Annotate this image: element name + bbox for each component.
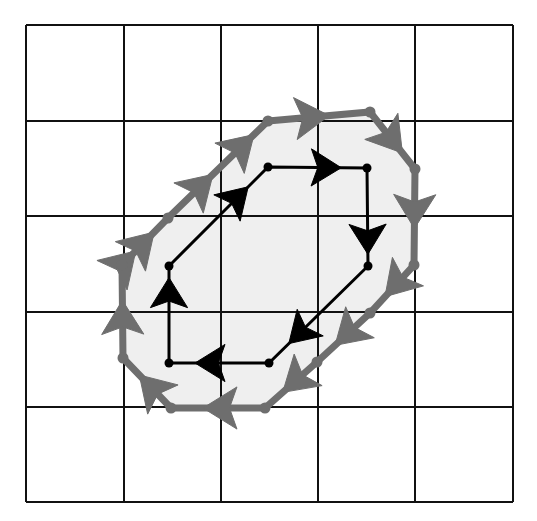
outer-gray-polygon-vertex-0 <box>263 116 274 127</box>
outer-gray-polygon-vertex-7 <box>166 403 177 414</box>
outer-gray-polygon-vertex-8 <box>118 353 129 364</box>
outer-gray-polygon-vertex-9 <box>117 260 128 271</box>
outer-gray-polygon-vertex-6 <box>260 403 271 414</box>
outer-gray-polygon-vertex-5 <box>312 357 323 368</box>
figure-root <box>0 0 537 521</box>
inner-black-polygon-vertex-3 <box>265 359 274 368</box>
inner-black-polygon-vertex-0 <box>264 163 273 172</box>
inner-black-polygon-vertex-5 <box>165 262 174 271</box>
outer-gray-polygon-vertex-1 <box>365 107 376 118</box>
inner-black-polygon-vertex-1 <box>363 164 372 173</box>
inner-black-polygon-vertex-2 <box>364 262 373 271</box>
outer-gray-polygon-vertex-10 <box>163 213 174 224</box>
outer-gray-polygon-vertex-3 <box>409 260 420 271</box>
outer-gray-polygon-vertex-4 <box>365 308 376 319</box>
outer-gray-polygon-vertex-2 <box>410 164 421 175</box>
figure-canvas <box>0 0 537 521</box>
inner-black-polygon-vertex-4 <box>165 359 174 368</box>
